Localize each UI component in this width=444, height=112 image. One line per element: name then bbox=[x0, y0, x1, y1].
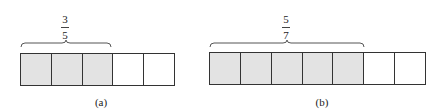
shaded-cell bbox=[333, 53, 364, 84]
caption-b: (b) bbox=[307, 96, 337, 108]
fraction-bar-b bbox=[209, 52, 426, 85]
shaded-cell bbox=[21, 54, 52, 85]
shaded-cell bbox=[272, 53, 303, 84]
fraction-label-a: 3 5 bbox=[55, 14, 75, 41]
unshaded-cell bbox=[144, 54, 174, 85]
fraction-bar bbox=[282, 27, 290, 28]
fraction-label-b: 5 7 bbox=[276, 14, 296, 41]
numerator: 5 bbox=[283, 13, 289, 25]
unshaded-cell bbox=[395, 53, 425, 84]
brace-icon bbox=[20, 40, 112, 48]
shaded-cell bbox=[52, 54, 83, 85]
shaded-cell bbox=[303, 53, 334, 84]
shaded-cell bbox=[83, 54, 114, 85]
shaded-cell bbox=[210, 53, 241, 84]
unshaded-cell bbox=[113, 54, 144, 85]
shaded-cell bbox=[241, 53, 272, 84]
numerator: 3 bbox=[62, 13, 68, 25]
fraction-bar bbox=[61, 27, 69, 28]
brace-icon bbox=[209, 40, 365, 48]
caption-a: (a) bbox=[86, 96, 116, 108]
fraction-bar-a bbox=[20, 53, 175, 86]
unshaded-cell bbox=[364, 53, 395, 84]
